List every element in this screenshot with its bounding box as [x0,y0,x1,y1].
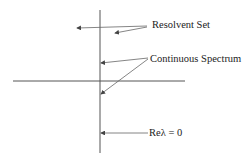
re-lambda-zero-label: Reλ = 0 [149,128,182,139]
resolvent-arrow-left [77,26,147,28]
continuous-spectrum-label: Continuous Spectrum [150,54,241,65]
resolvent-set-label: Resolvent Set [152,20,210,31]
spectrum-arrow-upper [101,58,148,63]
complex-plane-diagram [0,0,251,159]
spectrum-arrow-lower [101,59,148,94]
resolvent-arrow-right [115,27,147,33]
